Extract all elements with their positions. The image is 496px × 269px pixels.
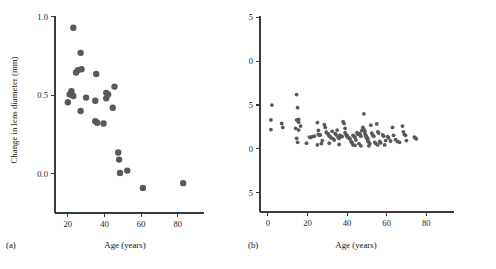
data-point (140, 185, 146, 191)
data-point (73, 69, 79, 75)
x-tick-label: 80 (422, 218, 431, 228)
panel-tag: (b) (248, 240, 258, 250)
data-point (111, 83, 117, 89)
data-point (270, 103, 274, 107)
data-point (359, 144, 363, 148)
data-point (389, 139, 393, 143)
data-point (362, 112, 366, 116)
data-point (305, 141, 309, 145)
data-point (297, 128, 301, 132)
data-point (83, 94, 89, 100)
y-tick-label: 0.5 (37, 90, 48, 100)
data-point (404, 133, 408, 137)
data-point (316, 129, 320, 133)
x-tick-label: 80 (173, 219, 182, 229)
data-point (115, 149, 121, 155)
data-point (117, 170, 123, 176)
x-axis-title: Age (years) (335, 240, 376, 250)
data-point (318, 133, 322, 137)
x-tick-label: 60 (137, 219, 146, 229)
data-point (100, 120, 106, 126)
data-point (376, 143, 380, 147)
data-point (401, 124, 405, 128)
data-point (392, 133, 396, 137)
data-point (414, 137, 418, 141)
data-point (384, 139, 388, 143)
data-point (337, 143, 341, 147)
data-point (391, 126, 395, 130)
data-point (295, 136, 299, 140)
data-point (269, 118, 273, 122)
y-tick-label: 1.0 (248, 56, 253, 66)
data-point (77, 50, 83, 56)
y-axis-title: Change in lens diameter (mm) (9, 56, 19, 163)
panel-tag: (a) (6, 240, 16, 250)
data-point (327, 141, 331, 145)
data-point (353, 143, 357, 147)
data-point (116, 156, 122, 162)
data-point (269, 128, 273, 132)
data-point (383, 143, 387, 147)
x-tick-label: 40 (343, 218, 352, 228)
x-tick-label: 20 (64, 219, 73, 229)
data-point (124, 167, 130, 173)
data-point (398, 140, 402, 144)
data-point (377, 131, 381, 135)
data-point (281, 126, 285, 130)
data-point (367, 144, 371, 148)
data-point (280, 122, 284, 126)
data-point (369, 123, 373, 127)
data-point (313, 134, 317, 138)
x-tick-label: 40 (100, 219, 109, 229)
data-point (77, 108, 83, 114)
x-tick-label: 60 (382, 218, 391, 228)
y-tick-label: −0.5 (248, 188, 253, 198)
panel-b: −0.50.00.51.01.5020406080Age (years)Chan… (248, 0, 496, 269)
data-point (296, 140, 300, 144)
data-point (296, 106, 300, 110)
scatter-plot-a: 0.00.51.020406080Age (years)Change in le… (0, 0, 248, 269)
data-point (65, 99, 71, 105)
y-tick-label: 0.0 (248, 144, 253, 154)
figure-container: 0.00.51.020406080Age (years)Change in le… (0, 0, 496, 269)
data-point (375, 122, 379, 126)
data-point (92, 98, 98, 104)
y-tick-label: 1.5 (248, 12, 253, 22)
data-point (295, 93, 299, 97)
data-point (340, 135, 344, 139)
data-point (382, 134, 386, 138)
y-tick-label: 0.5 (248, 100, 253, 110)
data-point (297, 120, 301, 124)
y-tick-label: 1.0 (37, 12, 48, 22)
data-point (372, 134, 376, 138)
x-tick-label: 20 (303, 218, 312, 228)
y-tick-label: 0.0 (37, 169, 48, 179)
data-point (354, 138, 358, 142)
data-point (332, 138, 336, 142)
data-point-group (269, 93, 418, 148)
data-point (405, 139, 409, 143)
data-point (320, 139, 324, 143)
data-point (299, 124, 303, 128)
data-point (109, 105, 115, 111)
data-point (70, 25, 76, 31)
data-point (315, 143, 319, 147)
data-point (94, 120, 100, 126)
data-point (93, 71, 99, 77)
data-point-group (65, 25, 187, 192)
data-point (323, 126, 327, 130)
data-point (315, 121, 319, 125)
x-axis-title: Age (years) (104, 240, 145, 250)
data-point (180, 180, 186, 186)
data-point (78, 66, 84, 72)
data-point (335, 128, 339, 132)
data-point (359, 134, 363, 138)
data-point (343, 126, 347, 130)
panel-a: 0.00.51.020406080Age (years)Change in le… (0, 0, 248, 269)
scatter-plot-b: −0.50.00.51.01.5020406080Age (years)Chan… (248, 0, 496, 269)
data-point (103, 95, 109, 101)
data-point (70, 93, 76, 99)
x-tick-label: 0 (266, 218, 270, 228)
data-point (342, 122, 346, 126)
